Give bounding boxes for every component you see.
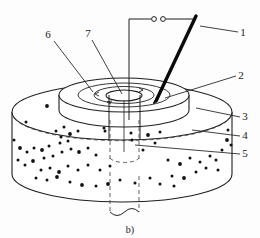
figure-caption: b)	[126, 224, 134, 236]
speckle-dot	[26, 151, 29, 154]
speckle-dot	[189, 157, 192, 160]
speckle-dot	[104, 130, 107, 133]
callout-label-5: 5	[242, 147, 248, 159]
speckle-dot	[87, 147, 90, 150]
speckle-dot	[182, 176, 186, 180]
speckle-dot	[45, 104, 49, 108]
speckle-dot	[69, 181, 72, 184]
speckle-dot	[61, 151, 64, 154]
callout-label-6: 6	[45, 28, 51, 40]
callout-leader-1	[200, 26, 238, 32]
speckle-dot	[215, 159, 218, 162]
technical-diagram: 1234567 b)	[0, 0, 260, 238]
speckle-dot	[40, 169, 43, 172]
callout-label-1: 1	[240, 26, 246, 38]
speckle-dot	[225, 138, 229, 142]
speckle-dot	[95, 185, 98, 188]
speckle-dot	[13, 139, 16, 142]
speckle-dot	[35, 177, 38, 180]
speckle-dot	[109, 165, 112, 168]
speckle-dot	[209, 155, 212, 158]
speckle-dot	[178, 162, 182, 166]
speckle-dot	[103, 127, 106, 130]
speckle-dot	[55, 130, 58, 133]
speckle-dot	[49, 167, 52, 170]
callout-label-3: 3	[242, 110, 248, 122]
speckle-dot	[33, 147, 36, 150]
speckle-dot	[46, 179, 49, 182]
speckle-dot	[43, 157, 46, 160]
speckle-dot	[17, 159, 20, 162]
speckle-dot	[77, 130, 80, 133]
speckle-dot	[25, 121, 28, 124]
speckle-dot	[130, 132, 133, 135]
speckle-dot	[173, 185, 176, 188]
callout-label-2: 2	[238, 69, 244, 81]
speckle-dot	[159, 131, 162, 134]
speckle-dot	[55, 175, 59, 179]
speckle-dot	[18, 146, 22, 150]
callout-label-7: 7	[85, 27, 91, 39]
callout-label-4: 4	[242, 129, 248, 141]
terminal-right[interactable]	[161, 17, 166, 22]
speckle-dot	[221, 149, 224, 152]
speckle-dot	[95, 154, 98, 157]
speckle-dot	[40, 148, 44, 152]
speckle-dot	[87, 164, 90, 167]
speckle-dot	[167, 159, 170, 162]
speckle-dot	[131, 139, 134, 142]
speckle-dot	[67, 165, 70, 168]
figure-stage: 1234567 b)	[0, 0, 260, 238]
speckle-dot	[199, 161, 202, 164]
speckle-dot	[134, 182, 137, 185]
speckle-dot	[57, 170, 61, 174]
speckle-dot	[77, 169, 80, 172]
speckle-dot	[24, 164, 27, 167]
speckle-dot	[77, 150, 81, 154]
speckle-dot	[171, 175, 174, 178]
speckle-dot	[142, 149, 145, 152]
speckle-dot	[159, 183, 162, 186]
speckle-dot	[60, 136, 63, 139]
speckle-dot	[59, 142, 62, 145]
speckle-dot	[63, 126, 66, 129]
speckle-dot	[70, 148, 73, 151]
speckle-dot	[119, 179, 122, 182]
speckle-dot	[68, 132, 72, 136]
speckle-dot	[205, 167, 208, 170]
speckle-dot	[31, 159, 35, 163]
speckle-dot	[154, 142, 157, 145]
speckle-dot	[52, 155, 55, 158]
speckle-dot	[230, 144, 233, 147]
speckle-dot	[227, 129, 230, 132]
speckle-dot	[195, 171, 198, 174]
break-symbol	[110, 209, 139, 216]
speckle-dot	[146, 133, 150, 137]
speckle-dot	[99, 169, 102, 172]
speckle-dot	[80, 183, 84, 187]
speckle-dot	[217, 169, 220, 172]
speckle-dot	[149, 177, 152, 180]
speckle-dot	[106, 182, 110, 186]
terminal-left[interactable]	[152, 17, 157, 22]
speckle-dot	[48, 145, 51, 148]
bore-mouth	[106, 90, 142, 101]
speckle-dot	[67, 140, 70, 143]
